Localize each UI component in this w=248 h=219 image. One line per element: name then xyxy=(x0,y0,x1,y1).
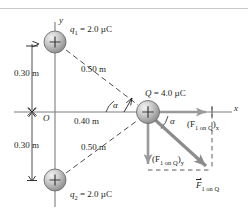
dimension-label-horizontal: 0.40 m xyxy=(74,117,99,126)
charge-label-q1: q1 = 2.0 µC xyxy=(70,25,112,36)
force-x-component-label: (F1 on Q)x xyxy=(187,120,219,131)
angle-label-alpha-left: α xyxy=(113,101,118,110)
dimension-label-lower-diagonal: 0.50 m xyxy=(81,143,106,152)
charge-sphere-q1 xyxy=(44,31,66,53)
resultant-force-label: F1 on Q xyxy=(196,181,219,192)
y-axis-label: y xyxy=(59,16,63,25)
angle-indicator-arrow-left xyxy=(106,98,132,112)
origin-label: O xyxy=(43,114,50,123)
dimension-label-upper-vertical: 0.30 m xyxy=(14,69,39,78)
dimension-label-lower-vertical: 0.30 m xyxy=(14,141,39,150)
charge-label-q2: q2 = 2.0 µC xyxy=(70,190,112,201)
physics-force-diagram: y x O q1 = 2.0 µC q2 = 2.0 µC Q = 4.0 µC… xyxy=(0,0,248,219)
x-axis-label: x xyxy=(234,104,238,113)
charge-sphere-q2 xyxy=(44,169,66,191)
charge-label-Q: Q = 4.0 µC xyxy=(145,89,186,98)
charge-sphere-Q xyxy=(137,101,160,124)
distance-line-q1-to-Q xyxy=(66,50,138,105)
force-y-component-label: (F1 on Q)y xyxy=(152,155,184,166)
dimension-label-upper-diagonal: 0.50 m xyxy=(81,65,106,74)
angle-label-alpha-right: α xyxy=(170,117,175,126)
